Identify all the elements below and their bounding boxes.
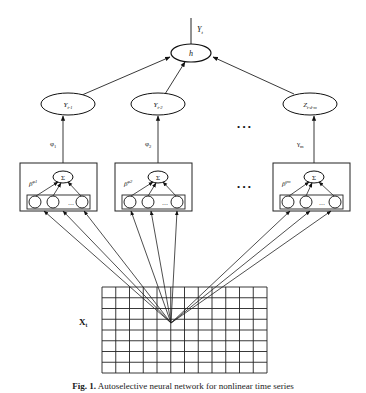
figure-caption: Fig. 1. Autoselective neural network for… [0,381,366,391]
weight-label-2: φ2 [145,140,151,149]
svg-text:…: … [319,200,325,206]
subnet-box-2: Σ βφ2 … [115,163,192,211]
caption-prefix: Fig. 1. [72,381,96,391]
svg-text:Σ: Σ [61,174,65,182]
subnet-box-m: Σ βγm … [273,163,350,211]
combiner-node-h: h [171,44,211,62]
output-label: Yt [197,25,203,35]
subnet-box-1: Σ βφ1 … [20,163,97,211]
svg-text:Σ: Σ [312,174,316,182]
svg-text:Σ: Σ [156,174,160,182]
node-y-t-1: Yt-1 [41,93,95,115]
svg-text:…: … [68,200,74,206]
input-connections [44,211,331,323]
weight-label-1: φ1 [50,140,56,149]
ellipsis-dots-lower: • • • [237,182,251,192]
svg-text:…: … [162,200,168,206]
caption-text: Autoselective neural network for nonline… [98,381,294,391]
node-z-t-d-m: Zt-d-m [283,93,337,115]
weight-label-m: γm [296,140,304,149]
input-grid [102,287,267,373]
input-label: Xt [79,317,88,328]
node-y-t-2: Yt-2 [131,93,185,115]
svg-text:h: h [189,49,193,58]
arrows-to-combiner [82,57,294,95]
ellipsis-dots-upper: • • • [237,122,251,132]
network-diagram: Yt h Yt-1 Yt-2 Zt-d-m • • • • • • φ1 φ2 … [0,0,366,393]
